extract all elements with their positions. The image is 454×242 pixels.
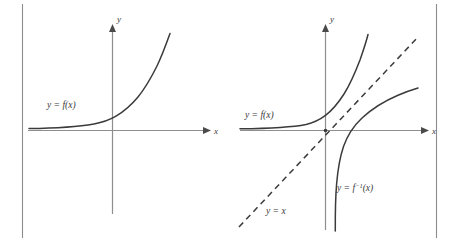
right-function-label: y = f(x) xyxy=(244,110,274,121)
left-x-axis-label: x xyxy=(213,126,218,136)
right-x-axis-arrow-icon xyxy=(421,127,429,134)
left-function-label: y = f(x) xyxy=(46,100,76,111)
identity-line-label: y = x xyxy=(265,206,286,216)
right-y-axis-label: y xyxy=(329,14,334,24)
identity-line-dashed xyxy=(239,36,419,227)
right-panel: x y y = f(x) y = f−1(x) y = x xyxy=(239,14,436,231)
figure-container: x y y = f(x) x y xyxy=(0,0,454,242)
function-inverse-figure: x y y = f(x) x y xyxy=(0,0,454,242)
right-inverse-curve xyxy=(335,88,418,231)
left-x-axis-arrow-icon xyxy=(203,127,211,134)
inverse-label-suffix: (x) xyxy=(363,183,374,194)
origin-point-marker xyxy=(324,129,328,133)
left-panel: x y y = f(x) xyxy=(28,14,218,214)
right-inverse-label: y = f−1(x) xyxy=(336,182,373,194)
left-y-axis-arrow-icon xyxy=(109,24,116,32)
right-x-axis-label: x xyxy=(431,126,436,136)
left-exponential-curve xyxy=(29,34,170,129)
left-y-axis-label: y xyxy=(116,14,121,24)
inverse-label-exponent: −1 xyxy=(355,182,363,189)
right-y-axis-arrow-icon xyxy=(322,24,329,32)
inverse-label-base: y = f xyxy=(336,183,356,193)
